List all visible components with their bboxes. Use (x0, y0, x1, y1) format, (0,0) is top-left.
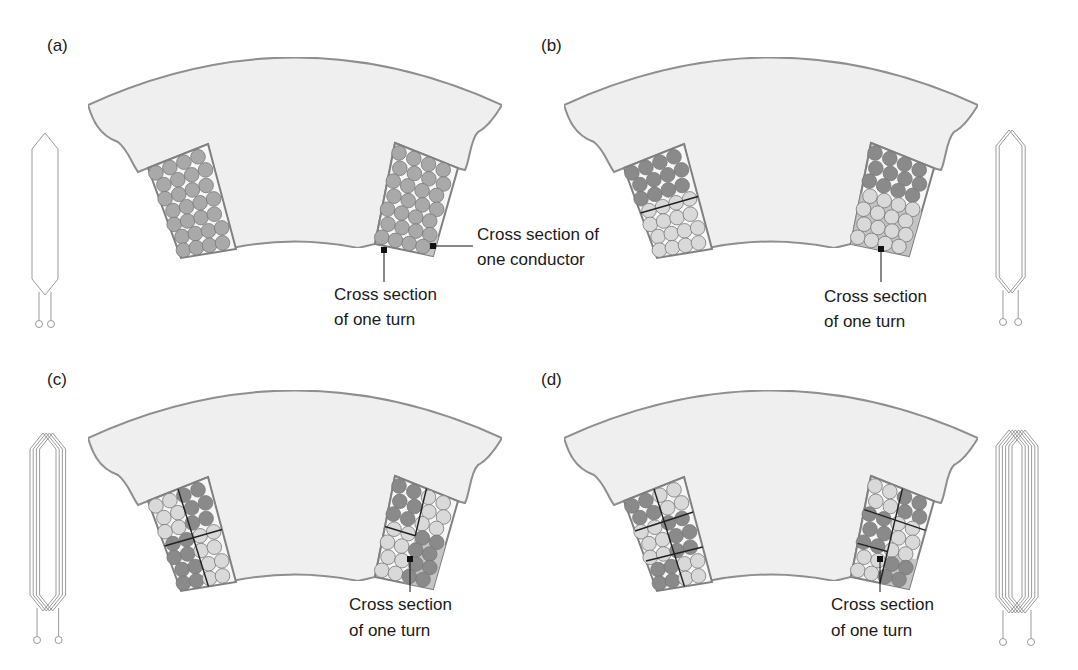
conductor (386, 507, 401, 522)
conductor (674, 163, 689, 178)
conductor (176, 576, 191, 591)
annotation-turn-line1: Cross section (831, 595, 934, 614)
conductor (912, 496, 927, 511)
conductor (690, 221, 705, 236)
conductor (863, 189, 878, 204)
terminal-icon (1015, 319, 1022, 326)
conductor (214, 221, 229, 236)
conductor (651, 229, 666, 244)
conductor (898, 547, 913, 562)
conductor (856, 535, 871, 550)
conductor (884, 210, 899, 225)
conductor (422, 547, 437, 562)
coil-turn (996, 130, 1022, 293)
conductor (857, 550, 872, 565)
conductor (172, 520, 187, 535)
conductor (678, 238, 693, 253)
conductor (864, 566, 879, 581)
coil-turn (40, 433, 66, 611)
conductor (388, 233, 403, 248)
stator-segment (88, 391, 502, 592)
conductor (166, 203, 181, 218)
conductor (199, 511, 214, 526)
conductor (392, 146, 407, 161)
stator-segment (88, 58, 502, 259)
conductor (381, 217, 396, 232)
conductor (897, 157, 912, 172)
conductor (421, 157, 436, 172)
conductor (871, 220, 886, 235)
conductor (175, 229, 190, 244)
annotation-turn-line1: Cross section (349, 595, 452, 614)
conductor (202, 238, 217, 253)
conductor (669, 529, 684, 544)
conductor (682, 525, 697, 540)
annotations: Cross section of one turn (824, 246, 927, 331)
conductor (664, 226, 679, 241)
conductor (193, 196, 208, 211)
annotation-turn-line2: of one turn (349, 621, 430, 640)
conductor (157, 177, 172, 192)
conductor (892, 239, 907, 254)
conductor (184, 501, 199, 516)
conductor (652, 243, 667, 258)
annotation-turn-line2: of one turn (831, 621, 912, 640)
terminal-icon (36, 321, 43, 328)
conductor (172, 187, 187, 202)
conductor (869, 494, 884, 509)
conductor (862, 507, 877, 522)
leader-marker (381, 247, 387, 253)
conductor (677, 224, 692, 239)
conductor (429, 188, 444, 203)
leader-marker (878, 246, 884, 252)
conductor (660, 168, 675, 183)
conductor (400, 179, 415, 194)
terminal-icon (48, 321, 55, 328)
conductor (381, 550, 396, 565)
conductor (661, 183, 676, 198)
coil-turn (32, 133, 58, 295)
conductor (660, 501, 675, 516)
conductor (862, 174, 877, 189)
conductor (194, 210, 209, 225)
panel-b: (b) Cross section of one turn (541, 36, 1025, 331)
annotation-conductor-line1: Cross section of (477, 225, 599, 244)
conductor (387, 189, 402, 204)
conductor (175, 562, 190, 577)
panel-label-a: (a) (47, 36, 68, 55)
terminal-icon (1028, 639, 1035, 646)
conductor (422, 214, 437, 229)
terminal-icon (1000, 319, 1007, 326)
panel-a: (a) Cross section of one conductor Cross… (32, 36, 599, 329)
conductor (851, 230, 866, 245)
conductor (690, 554, 705, 569)
conductor (883, 484, 898, 499)
panel-label-d: (d) (541, 370, 562, 389)
conductor (667, 483, 682, 498)
coil-turn (999, 130, 1025, 293)
leader-marker (877, 556, 883, 562)
conductor (653, 155, 668, 170)
conductor (176, 243, 191, 258)
annotation-turn-line2: of one turn (334, 310, 415, 329)
conductor (905, 521, 920, 536)
panel-d: (d) Cross section of one turn (541, 370, 1038, 646)
panel-c: (c) Cross section of one turn (30, 370, 502, 644)
coil-turn (1006, 430, 1032, 613)
conductor (180, 214, 195, 229)
conductor (402, 569, 417, 584)
conductor (380, 535, 395, 550)
coil-turn (1002, 430, 1028, 613)
conductor (394, 206, 409, 221)
conductor (407, 484, 422, 499)
conductor (436, 496, 451, 511)
conductor (207, 540, 222, 555)
conductor (675, 178, 690, 193)
conductor (179, 199, 194, 214)
conductor (633, 510, 648, 525)
panel-label-c: (c) (47, 370, 67, 389)
conductor (868, 479, 883, 494)
conductor (667, 150, 682, 165)
coil-diagram-icon (996, 430, 1038, 646)
conductor (856, 202, 871, 217)
